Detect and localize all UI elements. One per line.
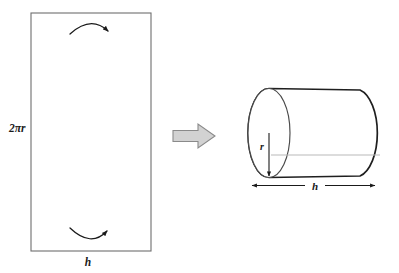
- transform-arrow-icon: [173, 124, 215, 148]
- cylinder-group: r h: [248, 89, 380, 192]
- rectangle-width-label: h: [85, 256, 91, 268]
- rectangle-height-label: 2πr: [8, 122, 26, 134]
- cylinder-height-label: h: [312, 180, 318, 192]
- unrolled-rectangle: [31, 13, 151, 251]
- cylinder-net-figure: 2πr h r h: [0, 0, 399, 273]
- cylinder-radius-label: r: [260, 141, 264, 152]
- figure-canvas: 2πr h r h: [0, 0, 399, 273]
- transform-arrow-group: [173, 124, 215, 148]
- rectangle-group: 2πr h: [8, 13, 151, 268]
